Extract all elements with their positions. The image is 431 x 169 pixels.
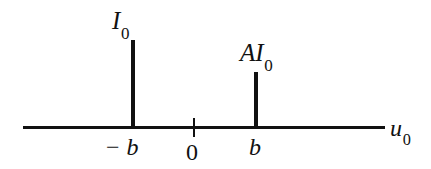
x-tick-label-minus-b: −b	[106, 135, 139, 159]
horizontal-axis-line	[23, 126, 385, 129]
x-tick-label-b: b	[249, 135, 261, 159]
x-tick-label-zero: 0	[186, 140, 198, 164]
minus-sign: −	[106, 134, 120, 160]
position-symbol-left: b	[127, 134, 139, 160]
impulse-spike-left	[131, 40, 135, 128]
impulse-spike-right	[254, 72, 258, 128]
amplitude-label-left: I0	[112, 8, 129, 38]
amplitude-symbol-left: I	[112, 7, 120, 34]
amplitude-prefix-right: A	[240, 39, 255, 66]
spectrum-figure: I0 AI0 u0 −b 0 b	[0, 0, 431, 169]
axis-variable-label: u0	[390, 116, 410, 145]
amplitude-subscript-left: 0	[121, 24, 130, 43]
axis-variable-subscript: 0	[403, 130, 411, 149]
axis-variable-symbol: u	[390, 115, 402, 141]
amplitude-label-right: AI0	[240, 40, 272, 70]
amplitude-symbol-right: I	[255, 39, 263, 66]
origin-tick-mark	[193, 118, 195, 137]
amplitude-subscript-right: 0	[264, 56, 273, 75]
